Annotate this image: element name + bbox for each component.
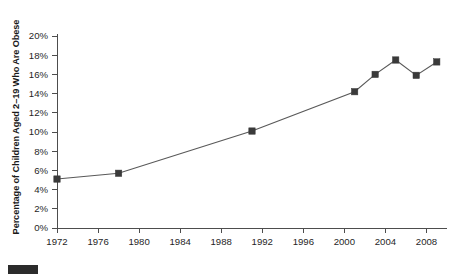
y-tick-label: 6% [34,165,48,176]
y-axis-ticks: 0%2%4%6%8%10%12%14%16%18%20% [29,30,57,233]
y-tick-label: 4% [34,184,48,195]
y-tick-label: 8% [34,146,48,157]
x-tick-label: 1992 [252,236,273,247]
caption-strip [0,264,453,274]
y-tick-label: 10% [29,126,49,137]
x-axis-ticks: 1972197619801984198819921996200020042008 [46,228,437,247]
x-tick-label: 2000 [334,236,355,247]
x-tick-label: 1988 [211,236,232,247]
data-point-marker [392,57,398,63]
x-tick-label: 1976 [87,236,108,247]
y-tick-label: 16% [29,69,49,80]
y-tick-label: 20% [29,30,49,41]
x-tick-label: 1980 [128,236,149,247]
series-line-obesity [57,60,437,179]
x-tick-label: 1984 [169,236,191,247]
y-tick-label: 12% [29,107,49,118]
data-point-marker [249,128,255,134]
data-point-marker [413,72,419,78]
x-tick-label: 1996 [293,236,314,247]
x-tick-label: 2004 [375,236,397,247]
y-tick-label: 0% [34,222,48,233]
line-chart-plot: 0%2%4%6%8%10%12%14%16%18%20% 19721976198… [0,0,453,274]
x-tick-label: 2008 [416,236,437,247]
data-point-marker [434,59,440,65]
y-tick-label: 14% [29,88,49,99]
data-point-marker [351,88,357,94]
chart-figure: Percentage of Children Aged 2–19 Who Are… [0,0,453,274]
series-markers-obesity [54,57,440,182]
data-point-marker [115,170,121,176]
data-point-marker [54,176,60,182]
data-point-marker [372,71,378,77]
legend-swatch [8,265,38,274]
y-tick-label: 18% [29,50,49,61]
y-tick-label: 2% [34,203,48,214]
x-tick-label: 1972 [46,236,67,247]
